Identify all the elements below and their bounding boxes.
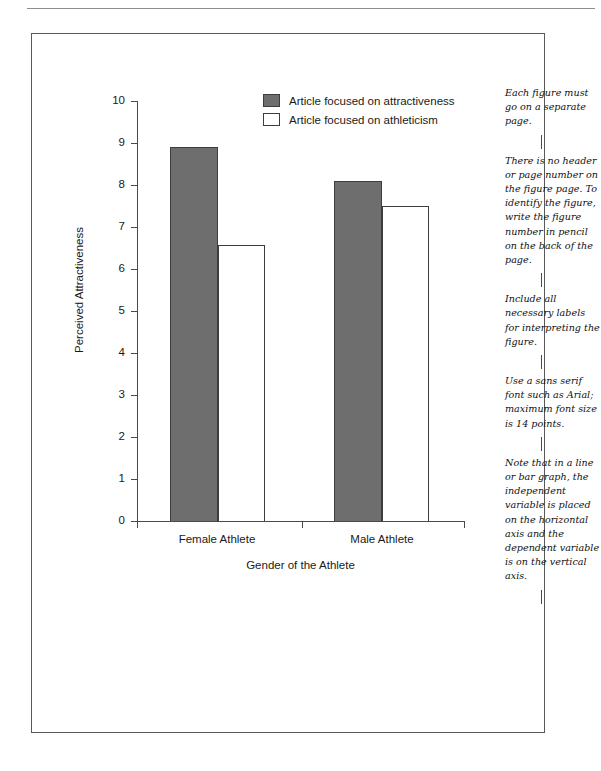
- y-axis-tick-label: 5: [99, 305, 125, 316]
- annotation-note-5: Note that in a line or bar graph, the in…: [505, 456, 601, 584]
- legend-label-attractiveness: Article focused on attractiveness: [289, 95, 455, 107]
- y-axis-tick-label: 6: [99, 263, 125, 274]
- figure-page-border: 10 9 8 7 6 5 4 3 2 1 0 Perceived Attract…: [31, 33, 545, 733]
- y-axis-tick: [131, 353, 137, 354]
- legend-swatch-hollow-icon: [263, 113, 280, 126]
- y-axis-tick-label: 4: [99, 347, 125, 358]
- x-axis-tick-label-female: Female Athlete: [152, 533, 282, 545]
- legend-label-athleticism: Article focused on athleticism: [289, 114, 438, 126]
- margin-annotations: Each figure must go on a separate page. …: [505, 86, 601, 604]
- y-axis-tick: [131, 395, 137, 396]
- annotation-note-3: Include all necessary labels for interpr…: [505, 292, 601, 349]
- y-axis-line: [137, 101, 138, 521]
- bar-female-attractiveness: [170, 147, 218, 522]
- y-axis-tick: [131, 437, 137, 438]
- y-axis-tick-label: 3: [99, 389, 125, 400]
- y-axis-tick-label: 9: [99, 137, 125, 148]
- annotation-separator: [541, 437, 542, 451]
- bar-chart-figure: 10 9 8 7 6 5 4 3 2 1 0 Perceived Attract…: [32, 34, 546, 734]
- bar-female-athleticism: [218, 245, 265, 522]
- annotation-note-4: Use a sans serif font such as Arial; max…: [505, 374, 601, 431]
- annotation-separator: [541, 273, 542, 287]
- annotation-note-1: Each figure must go on a separate page.: [505, 86, 601, 129]
- y-axis-tick: [131, 311, 137, 312]
- y-axis-tick-label: 1: [99, 473, 125, 484]
- y-axis-tick-label: 10: [99, 95, 125, 106]
- legend-item-attractiveness: Article focused on attractiveness: [263, 91, 455, 110]
- y-axis-tick-label: 8: [99, 179, 125, 190]
- y-axis-tick: [131, 227, 137, 228]
- y-axis-tick-label: 2: [99, 431, 125, 442]
- x-axis-tick: [302, 521, 303, 528]
- annotation-separator: [541, 135, 542, 149]
- page-header-rule: [27, 8, 595, 9]
- y-axis-tick: [131, 269, 137, 270]
- y-axis-title: Perceived Attractiveness: [73, 195, 85, 385]
- y-axis-tick: [131, 143, 137, 144]
- annotation-note-2: There is no header or page number on the…: [505, 154, 601, 268]
- page-header-text-fragment: [430, 0, 550, 7]
- x-axis-tick-label-male: Male Athlete: [317, 533, 447, 545]
- annotation-separator: [541, 590, 542, 604]
- y-axis-tick-label: 7: [99, 221, 125, 232]
- x-axis-tick: [464, 521, 465, 528]
- chart-legend: Article focused on attractiveness Articl…: [263, 91, 455, 129]
- y-axis-tick: [131, 479, 137, 480]
- x-axis-title: Gender of the Athlete: [137, 559, 464, 571]
- y-axis-tick-label: 0: [99, 515, 125, 526]
- annotation-separator: [541, 355, 542, 369]
- bar-male-athleticism: [382, 206, 429, 522]
- y-axis-tick: [131, 185, 137, 186]
- legend-item-athleticism: Article focused on athleticism: [263, 110, 455, 129]
- y-axis-tick: [131, 101, 137, 102]
- legend-swatch-filled-icon: [263, 94, 280, 107]
- bar-male-attractiveness: [334, 181, 382, 522]
- x-axis-tick: [137, 521, 138, 528]
- x-axis-line: [137, 521, 464, 522]
